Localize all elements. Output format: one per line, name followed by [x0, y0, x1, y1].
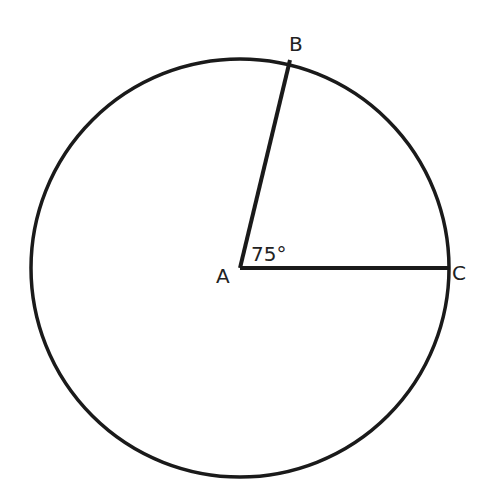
label-b: B	[289, 32, 303, 56]
label-a: A	[216, 264, 230, 288]
radius-ab	[240, 60, 290, 268]
angle-label: 75°	[251, 242, 286, 266]
label-c: C	[452, 261, 466, 285]
geometry-diagram: A B C 75°	[0, 0, 501, 501]
